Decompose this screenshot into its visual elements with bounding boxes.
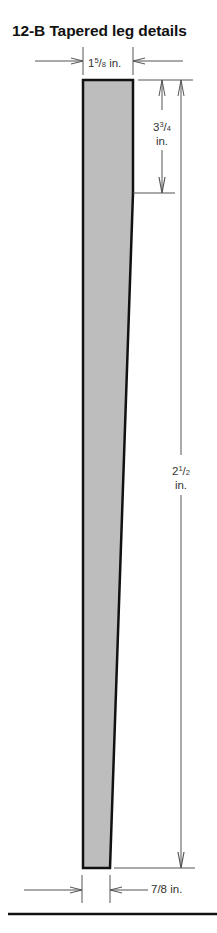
overall-den: 2 <box>186 468 190 477</box>
bottom-width-label: 7/8 in. <box>151 883 182 896</box>
overall-length-label: 21/2 in. <box>167 462 195 492</box>
top-width-den: 8 <box>102 60 106 69</box>
top-width-unit: in. <box>109 57 121 69</box>
straight-unit: in. <box>156 135 168 147</box>
top-width-label: 15/8 in. <box>88 54 121 71</box>
straight-den: 4 <box>167 124 171 133</box>
overall-num: 1 <box>178 464 182 473</box>
leg-shape <box>83 80 133 868</box>
straight-section-label: 33/4 in. <box>148 118 176 148</box>
overall-unit: in. <box>175 479 187 491</box>
top-width-num: 5 <box>94 56 98 65</box>
straight-num: 3 <box>159 120 163 129</box>
